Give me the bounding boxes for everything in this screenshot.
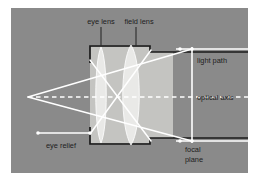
focal-plane-dot-top — [190, 47, 194, 51]
light-path-dot-top — [178, 47, 182, 51]
label-focal-plane-line2: plane — [185, 155, 203, 164]
label-focal-plane-line1: focal — [185, 145, 201, 154]
eye-lens — [96, 47, 107, 143]
figure-root: eye lens field lens light path optical a… — [0, 0, 258, 183]
label-optical-axis: optical axis — [197, 93, 234, 102]
focal-plane-dot-bottom — [190, 139, 194, 143]
optical-diagram: eye lens field lens light path optical a… — [0, 0, 258, 183]
label-eye-lens: eye lens — [87, 17, 115, 26]
label-light-path: light path — [197, 56, 227, 65]
eye-relief-dot-left — [36, 131, 40, 135]
eye-lens-body — [96, 47, 107, 143]
eye-relief-dot-right — [88, 131, 92, 135]
label-field-lens: field lens — [124, 17, 153, 26]
label-eye-relief: eye relief — [46, 141, 77, 150]
light-path-dot-bottom — [178, 139, 182, 143]
barrel-fill-step — [151, 52, 173, 138]
